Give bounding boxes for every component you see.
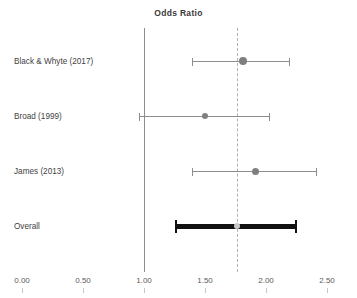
x-tick-label-1: 0.50: [63, 276, 103, 285]
x-tick-mark-5: [327, 288, 328, 293]
forest-row-0: Black & Whyte (2017): [0, 50, 357, 74]
point-estimate-marker-1: [202, 113, 208, 119]
plot-area: Black & Whyte (2017) Broad (1999) James …: [0, 0, 357, 298]
point-estimate-marker-overall: [234, 223, 240, 229]
point-estimate-marker-2: [252, 168, 259, 175]
x-tick-mark-2: [144, 288, 145, 293]
ci-cap-high-1: [269, 113, 270, 121]
x-tick-mark-0: [22, 288, 23, 293]
x-tick-label-5: 2.50: [307, 276, 347, 285]
ci-cap-low-1: [139, 113, 140, 121]
study-label-0: Black & Whyte (2017): [14, 50, 140, 74]
forest-row-1: Broad (1999): [0, 105, 357, 129]
x-tick-mark-1: [83, 288, 84, 293]
study-label-1: Broad (1999): [14, 105, 140, 129]
point-estimate-marker-0: [239, 57, 247, 65]
ci-cap-low-0: [192, 58, 193, 66]
study-label-2: James (2013): [14, 160, 140, 184]
x-tick-mark-3: [205, 288, 206, 293]
forest-plot-chart: Odds Ratio Black & Whyte (2017) Broad (1…: [0, 0, 357, 298]
ci-cap-high-0: [289, 58, 290, 66]
ci-cap-low-2: [192, 168, 193, 176]
ci-cap-low-overall: [175, 220, 177, 233]
x-tick-label-0: 0.00: [2, 276, 42, 285]
forest-row-overall: Overall: [0, 215, 357, 239]
ci-cap-high-2: [316, 168, 317, 176]
ci-cap-high-overall: [295, 220, 297, 233]
x-tick-label-2: 1.00: [124, 276, 164, 285]
x-tick-label-4: 2.00: [246, 276, 286, 285]
x-tick-mark-4: [266, 288, 267, 293]
forest-row-2: James (2013): [0, 160, 357, 184]
study-label-overall: Overall: [14, 215, 140, 239]
x-tick-label-3: 1.50: [185, 276, 225, 285]
